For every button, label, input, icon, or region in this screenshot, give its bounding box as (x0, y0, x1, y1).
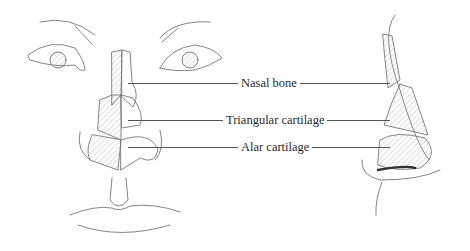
label-alar-cartilage: Alar cartilage (238, 140, 312, 154)
label-nasal-bone: Nasal bone (238, 76, 300, 90)
eyebrow-left (40, 20, 95, 44)
eye-left (28, 44, 85, 70)
frontal-nose (79, 50, 162, 206)
mouth (70, 205, 180, 232)
label-triangular-cartilage: Triangular cartilage (223, 113, 327, 127)
lateral-nose (362, 15, 440, 215)
eye-right (160, 45, 222, 71)
eyebrow-right (160, 22, 210, 42)
